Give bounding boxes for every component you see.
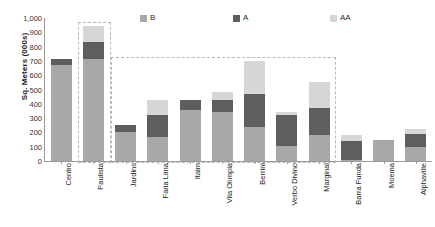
x-label-marginal: Marginal bbox=[322, 163, 331, 225]
x-label-vila-olímpia: Vila Olímpia bbox=[225, 163, 234, 225]
y-tick-label: 400 bbox=[12, 100, 42, 109]
x-label-berrini: Berrini bbox=[258, 163, 267, 225]
bar-segment-b bbox=[373, 140, 394, 161]
x-label-faria-lima: Faria Lima bbox=[161, 163, 170, 225]
x-label-verbo-divino: Verbo Divino bbox=[290, 163, 299, 225]
x-label-jardins: Jardins bbox=[129, 163, 138, 225]
bar-centro[interactable] bbox=[51, 59, 72, 161]
bar-segment-a bbox=[341, 141, 362, 160]
y-tick-label: 0 bbox=[12, 157, 42, 166]
x-label-alphaville: Alphaville bbox=[419, 163, 428, 225]
y-tick-label: 500 bbox=[12, 86, 42, 95]
y-tick-label: 300 bbox=[12, 114, 42, 123]
x-label-paulista: Paulista bbox=[96, 163, 105, 225]
x-label-itaim: Itaim bbox=[193, 163, 202, 225]
bar-chart: B A AA Sq. Meters (000s) 1,0009008007006… bbox=[0, 0, 435, 227]
x-label-centro: Centro bbox=[64, 163, 73, 225]
y-tick-label: 800 bbox=[12, 43, 42, 52]
y-tick-label: 600 bbox=[12, 71, 42, 80]
bar-alphaville[interactable] bbox=[405, 129, 426, 161]
annotation-paulista-highlight bbox=[78, 22, 110, 163]
y-tick-label: 100 bbox=[12, 143, 42, 152]
annotation-expanded-area-highlight bbox=[111, 57, 337, 163]
y-tick-label: 200 bbox=[12, 128, 42, 137]
bar-moema[interactable] bbox=[373, 140, 394, 161]
bar-segment-b bbox=[405, 147, 426, 161]
y-axis-ticks: 1,0009008007006005004003002001000 bbox=[8, 0, 42, 227]
y-tick-label: 700 bbox=[12, 57, 42, 66]
x-axis-labels: CentroPaulistaJardinsFaria LimaItaimVila… bbox=[45, 163, 432, 225]
y-tick-label: 1,000 bbox=[12, 14, 42, 23]
bar-segment-b bbox=[51, 65, 72, 161]
y-tick-label: 900 bbox=[12, 28, 42, 37]
bar-segment-a bbox=[405, 134, 426, 148]
bar-barra-funda[interactable] bbox=[341, 135, 362, 161]
x-label-moema: Moema bbox=[387, 163, 396, 225]
x-label-barra-funda: Barra Funda bbox=[354, 163, 363, 225]
